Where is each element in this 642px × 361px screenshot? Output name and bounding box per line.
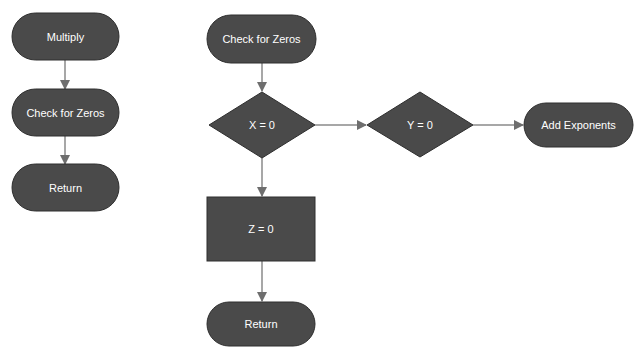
node-label: Y = 0	[407, 119, 433, 131]
flowchart-canvas: Multiply Check for Zeros Return Check fo…	[0, 0, 642, 361]
node-x-equals-zero[interactable]: X = 0	[209, 92, 315, 158]
node-label: Add Exponents	[541, 119, 616, 131]
node-add-exponents[interactable]: Add Exponents	[524, 103, 633, 147]
node-label: Return	[244, 318, 277, 330]
node-label: Check for Zeros	[26, 107, 105, 119]
node-return-right[interactable]: Return	[207, 302, 315, 346]
node-label: Check for Zeros	[222, 33, 301, 45]
node-z-equals-zero[interactable]: Z = 0	[207, 197, 315, 261]
right-flow-edges	[262, 63, 523, 301]
node-label: X = 0	[249, 119, 275, 131]
node-return-left[interactable]: Return	[12, 164, 119, 211]
node-label: Return	[49, 182, 82, 194]
node-multiply[interactable]: Multiply	[12, 13, 119, 60]
node-label: Multiply	[47, 31, 85, 43]
node-check-for-zeros-left[interactable]: Check for Zeros	[12, 89, 119, 136]
node-label: Z = 0	[248, 223, 273, 235]
node-check-for-zeros-right[interactable]: Check for Zeros	[207, 15, 316, 63]
node-y-equals-zero[interactable]: Y = 0	[367, 92, 473, 157]
